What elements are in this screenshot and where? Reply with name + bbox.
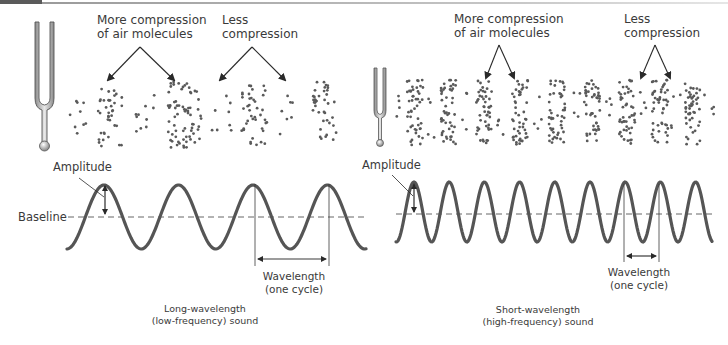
compression-arrows-left [108,47,285,80]
caption-right: Short-wavelength (high-frequency) sound [480,304,596,328]
baseline-label: Baseline [18,210,67,224]
air-molecules-high-frequency [395,79,715,147]
high-frequency-wave [396,182,712,242]
wavelength-label-right: Wavelength (one cycle) [607,266,671,292]
caption-left: Long-wavelength (low-frequency) sound [150,303,260,327]
amplitude-arrow-right [392,175,414,212]
less-compression-label-left: Less compression [222,13,298,41]
air-molecules-low-frequency [69,81,338,149]
less-compression-label-right: Less compression [624,12,700,40]
amplitude-arrow-left [79,178,105,214]
amplitude-label-right: Amplitude [362,158,421,172]
tuning-fork-small-icon [374,68,386,147]
wavelength-label-left: Wavelength (one cycle) [262,270,326,296]
tuning-fork-icon [35,22,54,151]
more-compression-label-right: More compression of air molecules [454,12,564,40]
more-compression-label-left: More compression of air molecules [97,13,207,41]
amplitude-label-left: Amplitude [53,160,112,174]
compression-arrows-right [486,45,670,78]
